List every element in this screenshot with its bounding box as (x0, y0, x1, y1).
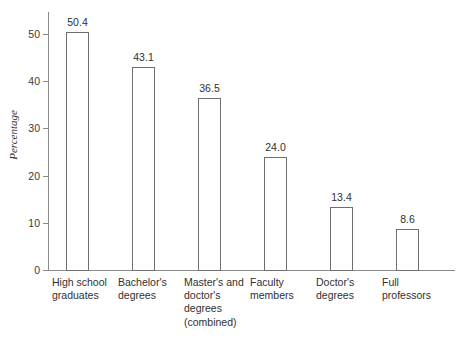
y-axis-tick-label: 10 (6, 218, 40, 228)
y-axis-line (48, 12, 49, 271)
x-axis-category-line: (combined) (184, 316, 250, 329)
y-axis-tick-label: 20 (6, 171, 40, 181)
bar (132, 67, 155, 271)
y-axis-tick (43, 176, 49, 177)
bar-value-label: 24.0 (251, 142, 300, 153)
x-axis-category-line: Faculty (250, 276, 316, 289)
y-axis-tick-label: 40 (6, 76, 40, 86)
y-axis-tick-label-wrap: 0 (0, 265, 40, 275)
x-axis-category-label: Doctor'sdegrees (316, 276, 382, 302)
y-axis-tick (43, 270, 49, 271)
x-axis-category-line: graduates (52, 289, 118, 302)
bar (66, 32, 89, 271)
y-axis-title: Percentage (7, 100, 19, 170)
x-axis-category-line: Master's and (184, 276, 250, 289)
x-axis-category-label: Master's anddoctor'sdegrees(combined) (184, 276, 250, 329)
bar-value-label: 50.4 (53, 17, 102, 28)
x-axis-category-label: Facultymembers (250, 276, 316, 302)
x-axis-category-label: High schoolgraduates (52, 276, 118, 302)
x-axis-category-line: High school (52, 276, 118, 289)
x-axis-category-line: degrees (118, 289, 184, 302)
bar (198, 98, 221, 271)
y-axis-tick (43, 128, 49, 129)
bar-value-label: 8.6 (383, 214, 432, 225)
y-axis-tick-label: 50 (6, 29, 40, 39)
x-axis-category-line: degrees (184, 302, 250, 315)
footnote-strip (55, 329, 385, 336)
bar (264, 157, 287, 271)
bar-value-label: 43.1 (119, 52, 168, 63)
y-axis-tick-label-wrap: 20 (0, 171, 40, 181)
y-axis-tick-label-wrap: 40 (0, 76, 40, 86)
x-axis-category-line: Doctor's (316, 276, 382, 289)
bar (330, 207, 353, 271)
y-axis-tick-label: 30 (6, 123, 40, 133)
y-axis-tick-label: 0 (6, 265, 40, 275)
x-axis-category-line: members (250, 289, 316, 302)
bar-value-label: 36.5 (185, 83, 234, 94)
bar (396, 229, 419, 271)
bar-value-label: 13.4 (317, 192, 366, 203)
y-axis-tick (43, 81, 49, 82)
y-axis-tick (43, 34, 49, 35)
y-axis-tick-label-wrap: 30 (0, 123, 40, 133)
plot-area: Percentage 01020304050 50.443.136.524.01… (0, 0, 469, 338)
x-axis-line (48, 270, 455, 271)
x-axis-category-line: Full (382, 276, 448, 289)
x-axis-category-label: Bachelor'sdegrees (118, 276, 184, 302)
x-axis-category-label: Fullprofessors (382, 276, 448, 302)
x-axis-category-line: degrees (316, 289, 382, 302)
y-axis-tick (43, 223, 49, 224)
x-axis-category-line: Bachelor's (118, 276, 184, 289)
x-axis-category-line: professors (382, 289, 448, 302)
bar-chart-figure: Percentage 01020304050 50.443.136.524.01… (0, 0, 469, 338)
x-axis-category-line: doctor's (184, 289, 250, 302)
y-axis-tick-label-wrap: 10 (0, 218, 40, 228)
y-axis-tick-label-wrap: 50 (0, 29, 40, 39)
